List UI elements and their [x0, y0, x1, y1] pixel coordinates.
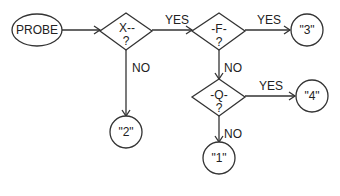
node-x-decision: X-- ?	[100, 13, 152, 50]
edge-x-out2: NO	[122, 50, 150, 116]
edge-probe-x	[62, 26, 100, 34]
node-output-1-label: "1"	[211, 151, 226, 165]
flowchart: YES NO YES NO YES NO PROBE X-- ? -F- ?	[0, 0, 340, 196]
node-output-4-label: "4"	[304, 89, 319, 103]
node-output-2: "2"	[110, 116, 142, 148]
node-output-4: "4"	[296, 80, 328, 112]
edge-label-f-q: NO	[224, 61, 242, 75]
node-x-label: X--	[119, 21, 135, 35]
node-f-question: ?	[216, 35, 223, 49]
edge-label-q-out1: NO	[224, 127, 242, 141]
edge-label-q-out4: YES	[259, 79, 283, 93]
node-x-question: ?	[123, 34, 130, 48]
edge-q-out4: YES	[245, 79, 295, 100]
node-output-2-label: "2"	[118, 125, 133, 139]
edge-label-x-out2: NO	[132, 61, 150, 75]
edge-f-q: NO	[215, 50, 242, 79]
edge-label-x-f: YES	[165, 13, 189, 27]
edge-x-f: YES	[152, 13, 192, 34]
edge-f-out3: YES	[245, 13, 290, 34]
node-f-decision: -F- ?	[192, 13, 245, 50]
node-probe: PROBE	[12, 14, 62, 46]
node-q-decision: -Q- ?	[192, 79, 245, 116]
edge-q-out1: NO	[215, 116, 242, 142]
edge-label-f-out3: YES	[257, 13, 281, 27]
node-output-3: "3"	[291, 14, 323, 46]
node-q-label: -Q-	[210, 88, 227, 102]
node-f-label: -F-	[211, 22, 226, 36]
node-output-3-label: "3"	[299, 23, 314, 37]
node-q-question: ?	[216, 101, 223, 115]
node-output-1: "1"	[203, 142, 235, 174]
node-probe-label: PROBE	[16, 23, 58, 37]
